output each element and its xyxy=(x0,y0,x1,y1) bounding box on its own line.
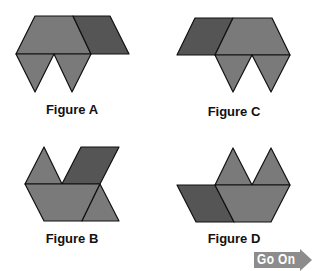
figure-b-label: Figure B xyxy=(22,231,122,246)
figure-a-triangle-left xyxy=(16,54,54,92)
figure-d-shapes xyxy=(177,148,290,222)
figure-d-triangle-right xyxy=(252,148,290,185)
figure-a-label: Figure A xyxy=(22,102,122,117)
go-on-label: Go On xyxy=(257,251,295,267)
figure-c-label: Figure C xyxy=(184,104,284,119)
figure-d-label: Figure D xyxy=(184,231,284,246)
figure-a-triangle-right xyxy=(54,54,91,92)
figure-c-triangle-left xyxy=(215,55,252,92)
figure-c-triangle-right xyxy=(252,55,290,92)
go-on-button[interactable]: Go On xyxy=(254,249,312,271)
figure-b-triangle-up xyxy=(25,147,62,184)
figure-d-triangle-left xyxy=(215,148,252,185)
figure-a-shapes xyxy=(16,16,129,92)
figure-b-parallelogram-dark xyxy=(62,147,119,184)
figure-b-shapes xyxy=(25,147,119,221)
figure-c-shapes xyxy=(177,18,290,92)
